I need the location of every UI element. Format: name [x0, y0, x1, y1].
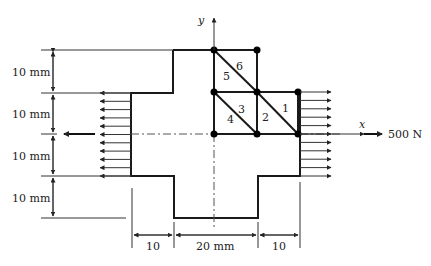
- node: [211, 89, 218, 96]
- dim-label-v2: 10 mm: [12, 108, 51, 121]
- element-label-3: 3: [238, 103, 245, 116]
- element-label-2: 2: [262, 111, 269, 124]
- dim-label-h3: 10: [272, 240, 286, 253]
- diagram-svg: 6 5 3 4 1 2 y x 500 N: [0, 0, 431, 266]
- dim-label-v3: 10 mm: [12, 150, 51, 163]
- dim-label-h1: 10: [146, 240, 160, 253]
- horizontal-dimensions: [132, 182, 300, 248]
- right-distributed-load: [300, 92, 331, 176]
- node: [211, 131, 218, 138]
- node: [254, 131, 261, 138]
- x-axis-label: x: [359, 118, 366, 131]
- element-label-6: 6: [236, 60, 243, 73]
- fem-diagram: 6 5 3 4 1 2 y x 500 N: [0, 0, 431, 266]
- element-label-4: 4: [227, 113, 234, 126]
- y-axis-label: y: [197, 14, 205, 27]
- force-label: 500 N: [388, 128, 422, 141]
- dim-label-v4: 10 mm: [12, 192, 51, 205]
- node: [254, 89, 261, 96]
- node: [254, 47, 261, 54]
- dim-label-h2: 20 mm: [196, 240, 235, 253]
- element-label-1: 1: [282, 102, 289, 115]
- left-distributed-load: [100, 93, 131, 176]
- element-label-5: 5: [223, 70, 230, 83]
- dim-label-v1: 10 mm: [12, 66, 51, 79]
